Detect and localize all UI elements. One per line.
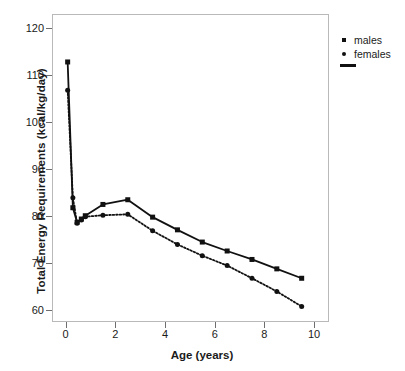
data-point-females [75, 221, 80, 226]
y-tick-mark [46, 263, 52, 264]
data-point-males [150, 215, 155, 220]
x-axis-title: Age (years) [52, 349, 352, 361]
data-point-females [175, 242, 180, 247]
data-point-males [175, 227, 180, 232]
chart-legend: males females [337, 33, 403, 67]
legend-item-males: males [337, 33, 403, 46]
data-point-males [225, 248, 230, 253]
y-tick-mark [46, 310, 52, 311]
y-tick-mark [46, 169, 52, 170]
data-point-females [225, 263, 230, 268]
x-tick-mark [115, 322, 116, 328]
plot-canvas [52, 14, 329, 322]
caption-sliver [0, 364, 405, 371]
y-tick-label: 100 [4, 116, 44, 128]
x-tick-label: 4 [145, 328, 185, 340]
line-key-icon [340, 64, 356, 67]
x-tick-label: 8 [244, 328, 284, 340]
x-tick-mark [165, 322, 166, 328]
figure: Total Energy Requirements (kcal/kg/day) … [0, 0, 405, 371]
legend-label-females: females [351, 48, 391, 60]
data-point-females [83, 214, 88, 219]
y-tick-label: 70 [4, 257, 44, 269]
data-point-males [65, 59, 70, 64]
y-tick-mark [46, 216, 52, 217]
series-line-males [68, 62, 302, 278]
y-tick-label: 90 [4, 163, 44, 175]
legend-item-females: females [337, 47, 403, 60]
square-marker-icon [337, 38, 351, 42]
data-point-males [125, 197, 130, 202]
data-point-males [100, 202, 105, 207]
data-point-males [249, 257, 254, 262]
x-tick-label: 2 [95, 328, 135, 340]
x-tick-label: 10 [294, 328, 334, 340]
y-tick-label: 60 [4, 304, 44, 316]
y-tick-mark [46, 28, 52, 29]
data-point-females [100, 213, 105, 218]
circle-marker-icon [337, 52, 351, 56]
x-tick-mark [264, 322, 265, 328]
data-point-males [274, 266, 279, 271]
x-tick-label: 6 [195, 328, 235, 340]
legend-label-males: males [351, 34, 382, 46]
y-tick-mark [46, 122, 52, 123]
data-point-females [200, 253, 205, 258]
data-point-females [274, 289, 279, 294]
x-tick-label: 0 [46, 328, 86, 340]
x-tick-mark [314, 322, 315, 328]
data-point-females [299, 304, 304, 309]
data-point-females [70, 195, 75, 200]
data-point-females [249, 276, 254, 281]
x-tick-mark [66, 322, 67, 328]
data-point-females [65, 88, 70, 93]
x-tick-mark [215, 322, 216, 328]
data-point-females [125, 212, 130, 217]
data-point-females [79, 217, 84, 222]
data-point-males [200, 240, 205, 245]
y-tick-mark [46, 75, 52, 76]
y-tick-label: 80 [4, 210, 44, 222]
data-point-males [299, 276, 304, 281]
data-point-females [150, 228, 155, 233]
y-tick-label: 120 [4, 22, 44, 34]
y-tick-label: 110 [4, 69, 44, 81]
series-line-females [68, 90, 302, 306]
